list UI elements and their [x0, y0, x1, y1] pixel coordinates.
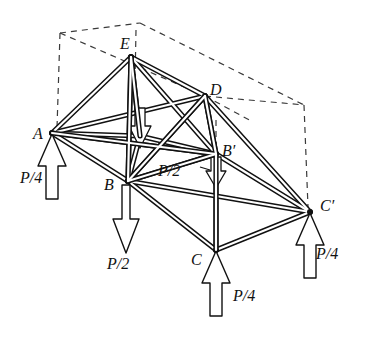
- node-label-D: D: [210, 82, 222, 98]
- node-label-C-prime: C′: [320, 198, 334, 214]
- load-arrow-C: [202, 251, 230, 316]
- truss-figure: A B C C′ B′ D E P/4 P/2 P/4 P/4 P/2: [0, 0, 369, 346]
- load-label-B: P/2: [107, 256, 129, 272]
- load-label-C-prime: P/4: [316, 246, 338, 262]
- load-arrow-B: [113, 185, 139, 253]
- node-label-A: A: [33, 126, 43, 142]
- node-label-B: B: [104, 177, 114, 193]
- load-arrow-A: [38, 134, 66, 199]
- load-label-B-prime: P/2: [158, 163, 180, 179]
- node-label-B-prime: B′: [222, 143, 235, 159]
- load-label-A: P/4: [20, 170, 42, 186]
- node-label-C: C: [191, 252, 202, 268]
- truss-members-outline: [52, 57, 310, 250]
- load-leader-line-Bprime: [200, 167, 210, 170]
- load-label-C: P/4: [233, 288, 255, 304]
- truss-diagram-canvas: [0, 0, 369, 346]
- box-edge-left-vertical: [57, 33, 60, 128]
- node-label-E: E: [120, 36, 130, 52]
- box-edge-right-vertical: [304, 105, 308, 207]
- box-edge-d-diagonal: [205, 96, 253, 122]
- box-edge-top-left: [60, 23, 140, 33]
